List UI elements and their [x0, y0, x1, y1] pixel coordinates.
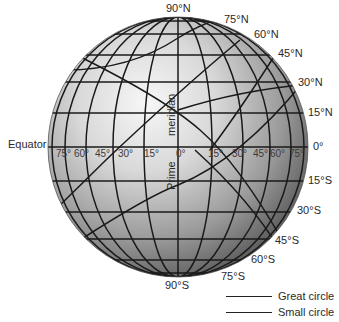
- equator-label: Equator: [8, 139, 47, 150]
- lon-label-75w: 75°: [56, 149, 71, 159]
- lon-label-30e: 30°: [232, 149, 247, 159]
- small-circle-line-icon: [226, 312, 272, 313]
- lat-label-30n: 30°N: [298, 77, 323, 88]
- lat-label-75n: 75°N: [224, 14, 249, 25]
- lat-label-0: 0°: [313, 141, 324, 152]
- lon-label-60e: 60°: [270, 149, 285, 159]
- lon-label-45w: 45°: [95, 149, 110, 159]
- lon-label-0: 0°: [176, 149, 186, 159]
- lat-label-15s: 15°S: [308, 175, 332, 186]
- lon-label-60w: 60°: [74, 149, 89, 159]
- lon-label-45e: 45°: [253, 149, 268, 159]
- lon-label-75e: 75°: [289, 149, 304, 159]
- lat-label-45s: 45°S: [275, 235, 299, 246]
- lat-label-60s: 60°S: [251, 254, 275, 265]
- lat-label-90n: 90°N: [166, 3, 191, 14]
- lon-label-30w: 30°: [118, 149, 133, 159]
- lat-label-75s: 75°S: [221, 271, 245, 282]
- lat-label-60n: 60°N: [254, 29, 279, 40]
- legend-label: Small circle: [278, 306, 334, 318]
- great-circle-line-icon: [226, 296, 272, 297]
- lat-label-15n: 15°N: [308, 107, 333, 118]
- prime-meridian-label-bottom: Prime: [166, 161, 177, 190]
- legend-item-great-circle: Great circle: [226, 289, 334, 303]
- lat-label-45n: 45°N: [278, 48, 303, 59]
- lat-label-30s: 30°S: [297, 205, 321, 216]
- lat-label-90s: 90°S: [165, 280, 189, 291]
- legend-label: Great circle: [278, 290, 334, 302]
- lon-label-15w: 15°: [144, 149, 159, 159]
- lon-label-15e: 15°: [208, 149, 223, 159]
- legend-item-small-circle: Small circle: [226, 305, 334, 319]
- prime-meridian-label-top: meridian: [166, 94, 177, 136]
